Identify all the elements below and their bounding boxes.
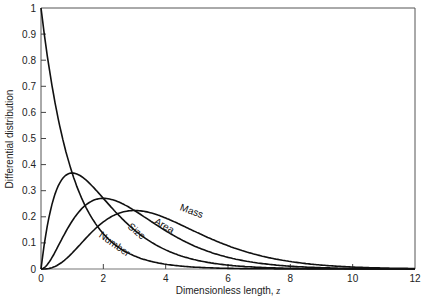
y-tick-label: 0.3	[22, 185, 36, 196]
y-tick-label: 0.1	[22, 237, 36, 248]
y-axis-ticks: 00.10.20.30.40.50.60.70.80.91	[22, 3, 46, 275]
curve-label-mass: Mass	[179, 202, 205, 221]
x-tick-label: 4	[163, 273, 169, 284]
curve-label-area: Area	[152, 215, 176, 235]
y-tick-label: 0	[30, 264, 36, 275]
x-tick-label: 0	[38, 273, 44, 284]
curve-size	[41, 173, 415, 269]
curve-label-number: Number	[97, 229, 133, 259]
x-axis-title-text: Dimensionless length,	[176, 285, 277, 296]
y-tick-label: 0.4	[22, 159, 36, 170]
x-tick-label: 12	[409, 273, 421, 284]
y-tick-label: 0.2	[22, 211, 36, 222]
x-tick-label: 6	[225, 273, 231, 284]
x-tick-label: 8	[288, 273, 294, 284]
x-axis-variable: z	[275, 285, 280, 296]
x-tick-label: 10	[347, 273, 359, 284]
x-axis-title: Dimensionless length, z	[176, 285, 281, 296]
curve-number	[41, 8, 415, 269]
y-tick-label: 0.5	[22, 133, 36, 144]
curve-area	[41, 198, 415, 269]
chart-canvas: 024681012 00.10.20.30.40.50.60.70.80.91 …	[0, 0, 426, 300]
plot-frame	[41, 8, 415, 269]
plot-border	[41, 8, 415, 269]
curves	[41, 8, 415, 269]
y-tick-label: 0.7	[22, 81, 36, 92]
curve-mass	[41, 211, 415, 270]
x-tick-label: 2	[101, 273, 107, 284]
y-tick-label: 0.8	[22, 55, 36, 66]
y-tick-label: 0.6	[22, 107, 36, 118]
y-tick-label: 1	[30, 3, 36, 14]
y-tick-label: 0.9	[22, 29, 36, 40]
y-axis-title: Differential distribution	[4, 90, 15, 189]
